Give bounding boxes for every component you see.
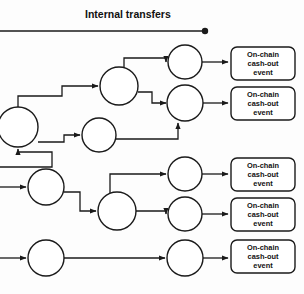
edge-node3-to-node4 (124, 58, 166, 68)
on-chain-cash-out-event-1[interactable]: On-chaincash-outevent (231, 47, 295, 80)
wallet-node-11[interactable] (167, 240, 203, 276)
edge-node2-to-node5 (116, 123, 178, 139)
wallet-node-7[interactable] (98, 192, 136, 230)
internal-transfers-header: Internal transfers (0, 8, 208, 34)
edge-node6-to-node7 (64, 192, 96, 211)
internal-transfers-label: Internal transfers (85, 8, 171, 20)
on-chain-cash-out-event-5-line-3: event (253, 261, 273, 270)
on-chain-cash-out-event-4-line-2: cash-out (248, 210, 279, 219)
wallet-node-4[interactable] (168, 45, 202, 79)
wallet-node-1[interactable] (0, 107, 38, 147)
wallet-node-9[interactable] (168, 197, 202, 231)
edge-node3-to-node5 (138, 92, 166, 103)
wallet-node-5[interactable] (167, 85, 203, 121)
on-chain-cash-out-event-1-line-3: event (253, 68, 273, 77)
on-chain-cash-out-event-3-line-1: On-chain (247, 161, 280, 170)
wallet-node-2[interactable] (82, 118, 116, 152)
on-chain-cash-out-event-1-line-2: cash-out (248, 59, 279, 68)
on-chain-cash-out-event-4[interactable]: On-chaincash-outevent (231, 198, 295, 231)
wallet-node-8[interactable] (168, 157, 202, 191)
edge-node1-to-node3 (18, 86, 98, 107)
on-chain-cash-out-event-2-line-3: event (253, 108, 273, 117)
on-chain-cash-out-event-2-line-2: cash-out (248, 99, 279, 108)
wallet-node-6[interactable] (28, 169, 64, 205)
on-chain-cash-out-event-5[interactable]: On-chaincash-outevent (231, 240, 295, 273)
edge-node7-to-node9 (136, 211, 166, 214)
wallet-node-10[interactable] (28, 240, 64, 276)
on-chain-cash-out-event-3[interactable]: On-chaincash-outevent (231, 158, 295, 191)
wallet-node-3[interactable] (100, 67, 138, 105)
on-chain-cash-out-event-1-line-1: On-chain (247, 50, 280, 59)
on-chain-cash-out-event-2-line-1: On-chain (247, 90, 280, 99)
flow-diagram: Internal transfers On-chaincash-outevent… (0, 0, 304, 294)
on-chain-cash-out-event-4-line-3: event (253, 219, 273, 228)
on-chain-cash-out-event-3-line-2: cash-out (248, 170, 279, 179)
nodes-group (0, 45, 203, 276)
on-chain-cash-out-event-5-line-1: On-chain (247, 243, 280, 252)
on-chain-cash-out-event-2[interactable]: On-chaincash-outevent (231, 87, 295, 120)
internal-transfers-endpoint-dot (202, 28, 208, 34)
diagram-canvas: Internal transfers On-chaincash-outevent… (0, 0, 304, 294)
edge-inflow-to-node1 (0, 149, 52, 167)
on-chain-cash-out-event-4-line-1: On-chain (247, 201, 280, 210)
edge-node7-to-node8 (110, 174, 166, 193)
on-chain-cash-out-event-3-line-3: event (253, 179, 273, 188)
edge-node1-to-node2 (38, 135, 80, 142)
on-chain-cash-out-event-5-line-2: cash-out (248, 252, 279, 261)
event-boxes-group: On-chaincash-outeventOn-chaincash-outeve… (231, 47, 295, 273)
